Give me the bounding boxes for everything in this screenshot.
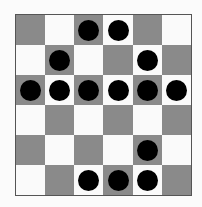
black-piece-icon[interactable] (108, 20, 129, 41)
board-cell[interactable] (133, 45, 162, 75)
black-piece-icon[interactable] (78, 170, 99, 191)
black-piece-icon[interactable] (137, 170, 158, 191)
board-cell[interactable] (74, 105, 103, 135)
black-piece-icon[interactable] (137, 50, 158, 71)
black-piece-icon[interactable] (137, 80, 158, 101)
board-cell[interactable] (16, 165, 45, 195)
board-cell[interactable] (103, 45, 132, 75)
board-cell[interactable] (103, 165, 132, 195)
black-piece-icon[interactable] (49, 80, 70, 101)
board-cell[interactable] (45, 135, 74, 165)
board-cell[interactable] (16, 135, 45, 165)
black-piece-icon[interactable] (108, 80, 129, 101)
board-cell[interactable] (45, 165, 74, 195)
board-cell[interactable] (133, 105, 162, 135)
board-cell[interactable] (45, 75, 74, 105)
board-cell[interactable] (74, 15, 103, 45)
board-cell[interactable] (103, 105, 132, 135)
board-cell[interactable] (74, 135, 103, 165)
board-cell[interactable] (103, 15, 132, 45)
board-cell[interactable] (162, 45, 191, 75)
board-cell[interactable] (133, 165, 162, 195)
board-cell[interactable] (162, 135, 191, 165)
black-piece-icon[interactable] (49, 50, 70, 71)
board-cell[interactable] (74, 165, 103, 195)
board-cell[interactable] (133, 75, 162, 105)
black-piece-icon[interactable] (78, 80, 99, 101)
board-cell[interactable] (103, 135, 132, 165)
black-piece-icon[interactable] (20, 80, 41, 101)
game-board (15, 14, 192, 196)
black-piece-icon[interactable] (137, 140, 158, 161)
board-cell[interactable] (74, 45, 103, 75)
board-cell[interactable] (45, 45, 74, 75)
black-piece-icon[interactable] (108, 170, 129, 191)
board-cell[interactable] (162, 105, 191, 135)
board-cell[interactable] (103, 75, 132, 105)
black-piece-icon[interactable] (78, 20, 99, 41)
board-cell[interactable] (16, 105, 45, 135)
black-piece-icon[interactable] (166, 80, 187, 101)
board-cell[interactable] (162, 75, 191, 105)
board-cell[interactable] (45, 15, 74, 45)
board-cell[interactable] (74, 75, 103, 105)
board-cell[interactable] (162, 15, 191, 45)
board-cell[interactable] (133, 15, 162, 45)
board-cell[interactable] (162, 165, 191, 195)
board-cell[interactable] (16, 45, 45, 75)
board-cell[interactable] (45, 105, 74, 135)
board-cell[interactable] (16, 15, 45, 45)
board-cell[interactable] (133, 135, 162, 165)
board-cell[interactable] (16, 75, 45, 105)
